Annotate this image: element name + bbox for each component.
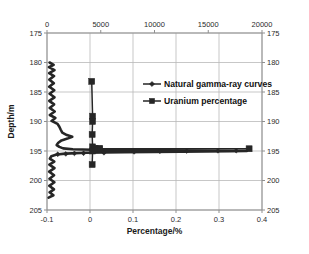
tick-label-top: 0 bbox=[45, 20, 49, 29]
tick-label-left: 195 bbox=[29, 147, 42, 156]
tick-label-left: 180 bbox=[29, 58, 42, 67]
tick-label-right: 195 bbox=[267, 147, 280, 156]
tick-label-bottom: 0.2 bbox=[171, 215, 181, 224]
marker-square bbox=[89, 131, 95, 137]
tick-label-bottom: 0.3 bbox=[214, 215, 224, 224]
chart-legend: Natural gamma-ray curvesUranium percenta… bbox=[143, 79, 272, 106]
tick-label-bottom: 0.1 bbox=[128, 215, 138, 224]
marker-square bbox=[89, 78, 95, 84]
tick-label-top: 10000 bbox=[144, 20, 165, 29]
tick-label-right: 200 bbox=[267, 176, 280, 185]
legend-label-0: Natural gamma-ray curves bbox=[164, 79, 272, 89]
legend-label-1: Uranium percentage bbox=[164, 96, 247, 106]
tick-label-right: 175 bbox=[267, 29, 280, 38]
chart-canvas: 05000100001500020000-0.100.10.20.30.4175… bbox=[0, 0, 309, 254]
tick-label-left: 185 bbox=[29, 88, 42, 97]
tick-label-right: 180 bbox=[267, 58, 280, 67]
marker-square bbox=[90, 148, 96, 154]
tick-label-right: 190 bbox=[267, 117, 280, 126]
tick-label-right: 205 bbox=[267, 206, 280, 215]
marker-diamond bbox=[149, 81, 154, 86]
tick-label-left: 190 bbox=[29, 117, 42, 126]
tick-label-bottom: 0.4 bbox=[257, 215, 267, 224]
tick-label-bottom: -0.1 bbox=[41, 215, 54, 224]
tick-label-top: 15000 bbox=[198, 20, 219, 29]
marker-square bbox=[246, 146, 252, 152]
tick-label-bottom: 0 bbox=[88, 215, 92, 224]
x-axis-title: Percentage/% bbox=[127, 226, 183, 236]
marker-square bbox=[89, 162, 95, 168]
tick-label-top: 5000 bbox=[92, 20, 109, 29]
gamma-ray-uranium-depth-chart: 05000100001500020000-0.100.10.20.30.4175… bbox=[0, 0, 309, 254]
tick-label-left: 205 bbox=[29, 206, 42, 215]
tick-label-top: 20000 bbox=[252, 20, 273, 29]
tick-label-left: 175 bbox=[29, 29, 42, 38]
marker-square bbox=[90, 119, 96, 125]
y-axis-title: Depth/m bbox=[6, 104, 16, 138]
marker-diamond bbox=[72, 151, 77, 156]
tick-label-left: 200 bbox=[29, 176, 42, 185]
marker-square bbox=[149, 98, 154, 103]
